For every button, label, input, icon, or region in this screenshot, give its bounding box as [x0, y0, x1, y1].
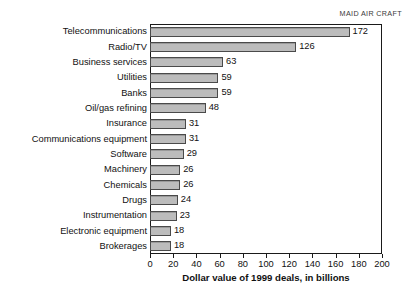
- x-tick-label: 80: [238, 259, 248, 270]
- bar-row: 59: [150, 88, 382, 98]
- category-label: Brokerages: [0, 241, 147, 251]
- bar-row: 31: [150, 134, 382, 144]
- category-label: Electronic equipment: [0, 226, 147, 236]
- bar-value-label: 59: [221, 87, 231, 98]
- bar-value-label: 26: [183, 179, 193, 190]
- bar-value-label: 18: [174, 225, 184, 236]
- x-tick-label: 20: [168, 259, 178, 270]
- bar-row: 18: [150, 241, 382, 251]
- bar-value-label: 126: [299, 41, 315, 52]
- bar-row: 24: [150, 195, 382, 205]
- bar-row: 59: [150, 73, 382, 83]
- bar: [150, 226, 171, 236]
- bar-value-label: 63: [226, 56, 236, 67]
- x-tick-label: 180: [351, 259, 367, 270]
- bar-value-label: 23: [180, 210, 190, 221]
- x-tick-mark: [312, 254, 313, 258]
- x-tick-label: 140: [305, 259, 321, 270]
- category-label: Oil/gas refining: [0, 103, 147, 113]
- x-tick-mark: [220, 254, 221, 258]
- x-tick-label: 60: [214, 259, 224, 270]
- bar-row: 29: [150, 149, 382, 159]
- category-label: Chemicals: [0, 180, 147, 190]
- x-tick-mark: [243, 254, 244, 258]
- category-label: Telecommunications: [0, 26, 147, 36]
- x-tick-mark: [196, 254, 197, 258]
- category-label: Insurance: [0, 118, 147, 128]
- x-tick-mark: [289, 254, 290, 258]
- category-label: Radio/TV: [0, 42, 147, 52]
- bar-row: 23: [150, 211, 382, 221]
- bar: [150, 134, 186, 144]
- bar-row: 48: [150, 103, 382, 113]
- bar-row: 126: [150, 42, 382, 52]
- bar: [150, 119, 186, 129]
- bar-value-label: 59: [221, 72, 231, 83]
- x-tick-label: 120: [281, 259, 297, 270]
- bar-chart-figure: MAID AIR CRAFT TelecommunicationsRadio/T…: [0, 0, 410, 304]
- bar: [150, 165, 180, 175]
- bar-value-label: 24: [181, 194, 191, 205]
- bar-value-label: 31: [189, 118, 199, 129]
- bar: [150, 88, 218, 98]
- category-label: Instrumentation: [0, 210, 147, 220]
- x-tick-label: 100: [258, 259, 274, 270]
- category-axis: TelecommunicationsRadio/TVBusiness servi…: [0, 24, 147, 254]
- bar-value-label: 18: [174, 240, 184, 251]
- bar: [150, 42, 296, 52]
- x-tick-mark: [266, 254, 267, 258]
- category-label: Machinery: [0, 164, 147, 174]
- bar: [150, 195, 178, 205]
- x-tick-mark: [173, 254, 174, 258]
- bar: [150, 180, 180, 190]
- x-tick-mark: [382, 254, 383, 258]
- x-axis-title: Dollar value of 1999 deals, in billions: [150, 272, 382, 283]
- x-tick-mark: [336, 254, 337, 258]
- bars-layer: 17212663595948313129262624231818: [150, 24, 382, 254]
- bar: [150, 241, 171, 251]
- bar-row: 63: [150, 57, 382, 67]
- bar: [150, 149, 184, 159]
- bar: [150, 103, 206, 113]
- bar: [150, 27, 350, 37]
- category-label: Utilities: [0, 72, 147, 82]
- source-label: MAID AIR CRAFT: [340, 9, 402, 18]
- x-tick-label: 0: [147, 259, 152, 270]
- category-label: Business services: [0, 57, 147, 67]
- bar-row: 26: [150, 180, 382, 190]
- x-tick-mark: [150, 254, 151, 258]
- x-tick-label: 40: [191, 259, 201, 270]
- category-label: Communications equipment: [0, 134, 147, 144]
- x-tick-label: 200: [374, 259, 390, 270]
- bar-row: 172: [150, 27, 382, 37]
- category-label: Software: [0, 149, 147, 159]
- bar-value-label: 172: [353, 26, 369, 37]
- bar-value-label: 48: [209, 102, 219, 113]
- bar-row: 26: [150, 165, 382, 175]
- category-label: Banks: [0, 88, 147, 98]
- category-label: Drugs: [0, 195, 147, 205]
- bar: [150, 73, 218, 83]
- bar-row: 31: [150, 119, 382, 129]
- bar-value-label: 29: [187, 148, 197, 159]
- x-tick-label: 160: [328, 259, 344, 270]
- bar-value-label: 31: [189, 133, 199, 144]
- bar-value-label: 26: [183, 164, 193, 175]
- bar-row: 18: [150, 226, 382, 236]
- x-tick-mark: [359, 254, 360, 258]
- bar: [150, 57, 223, 67]
- bar: [150, 211, 177, 221]
